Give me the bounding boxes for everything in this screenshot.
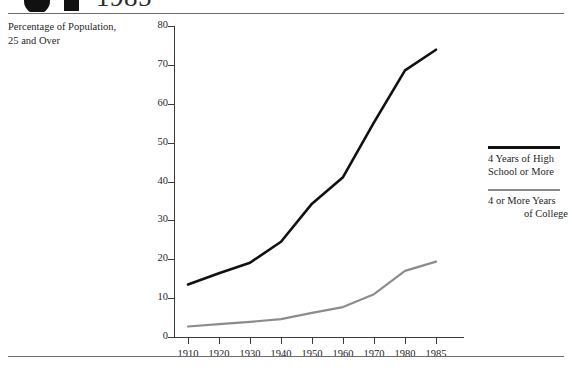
y-tick-label-30: 30	[138, 213, 168, 224]
legend-label-college-line1: 4 or More Years	[488, 195, 556, 206]
legend-label-high-school-line1: 4 Years of High	[488, 153, 554, 164]
y-tick-label-80: 80	[138, 19, 168, 30]
y-tick-label-70: 70	[138, 58, 168, 69]
x-tick-1920	[219, 338, 220, 344]
series-line-high-school	[188, 50, 436, 285]
y-tick-label-60: 60	[138, 97, 168, 108]
legend: 4 Years of High School or More 4 or More…	[488, 146, 568, 231]
filled-square-icon	[64, 0, 79, 11]
x-tick-1980	[405, 338, 406, 344]
series-layer	[174, 26, 464, 338]
legend-swatch-college	[488, 189, 560, 191]
legend-label-high-school: 4 Years of High School or More	[488, 152, 568, 178]
y-axis-caption-line1: Percentage of Population,	[8, 20, 148, 34]
plot-area: 191019201930194019501960197019801985	[174, 26, 464, 338]
y-axis-caption-line2: 25 and Over	[8, 34, 148, 48]
y-tick-label-50: 50	[138, 136, 168, 147]
header-band: 1985	[0, 0, 572, 12]
bottom-divider	[8, 356, 564, 357]
x-tick-1930	[250, 338, 251, 344]
y-tick-label-20: 20	[138, 252, 168, 263]
y-axis-caption: Percentage of Population, 25 and Over	[8, 20, 148, 47]
header-year: 1985	[96, 0, 152, 12]
legend-entry-high-school[interactable]: 4 Years of High School or More	[488, 146, 568, 178]
y-tick-label-10: 10	[138, 291, 168, 302]
x-tick-label-1985: 1985	[414, 348, 458, 359]
legend-label-college-line2: of College	[488, 207, 568, 220]
x-tick-1985	[436, 338, 437, 344]
y-tick-label-0: 0	[138, 330, 168, 341]
x-tick-1910	[188, 338, 189, 344]
top-divider	[8, 13, 564, 14]
x-tick-1940	[281, 338, 282, 344]
filled-circle-icon	[24, 0, 50, 12]
x-tick-1950	[312, 338, 313, 344]
y-tick-label-40: 40	[138, 175, 168, 186]
legend-swatch-high-school	[488, 146, 560, 149]
legend-entry-college[interactable]: 4 or More Years of College	[488, 189, 568, 220]
chart-page: 1985 Percentage of Population, 25 and Ov…	[0, 0, 572, 371]
legend-label-high-school-line2: School or More	[488, 165, 568, 178]
x-tick-1960	[343, 338, 344, 344]
legend-label-college: 4 or More Years of College	[488, 194, 568, 220]
y-axis-tick-labels: 01020304050607080	[134, 26, 168, 338]
x-tick-1970	[374, 338, 375, 344]
